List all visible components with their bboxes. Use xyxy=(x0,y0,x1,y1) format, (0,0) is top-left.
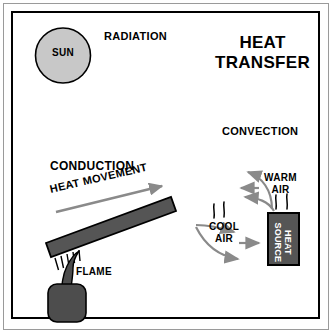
cool-air-label: COOLAIR xyxy=(209,221,239,245)
cool-air-line-1: COOL xyxy=(209,221,239,232)
flame-shape xyxy=(48,251,86,322)
heat-transfer-diagram: RADIATION HEATTRANSFER CONVECTION CONDUC… xyxy=(0,0,334,335)
diagram-title: HEATTRANSFER xyxy=(215,33,310,72)
sun-label: SUN xyxy=(35,47,91,58)
title-line-2: TRANSFER xyxy=(215,53,310,72)
warm-air-line-1: WARM xyxy=(264,172,297,183)
flame-label: FLAME xyxy=(76,266,112,277)
radiation-section-label: RADIATION xyxy=(104,30,167,42)
conduction-bar xyxy=(46,197,176,257)
heat-source-label: HEATSOURCE xyxy=(273,209,294,275)
cool-air-squiggles xyxy=(214,202,225,218)
cool-air-line-2: AIR xyxy=(215,233,233,244)
rising-heat-squiggles xyxy=(276,194,288,209)
warm-air-label: WARMAIR xyxy=(264,172,297,196)
title-line-1: HEAT xyxy=(239,33,285,52)
warm-air-line-2: AIR xyxy=(271,184,289,195)
heat-source-line-2: SOURCE xyxy=(273,222,283,262)
heat-source-line-1: HEAT xyxy=(283,230,293,255)
convection-section-label: CONVECTION xyxy=(222,125,298,137)
burner-base xyxy=(48,284,86,322)
